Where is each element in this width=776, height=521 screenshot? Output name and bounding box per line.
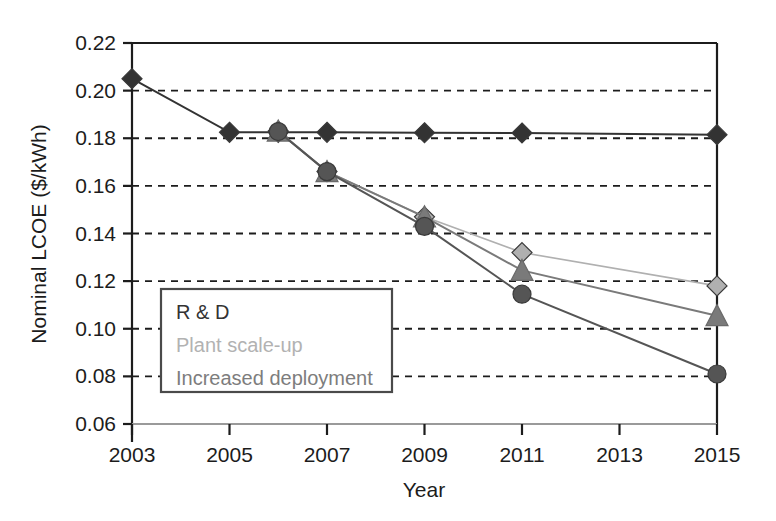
x-tick-label: 2011 [499, 443, 544, 466]
x-axis-title: Year [403, 478, 445, 501]
y-tick-label: 0.18 [75, 126, 116, 149]
y-tick-label: 0.08 [75, 364, 116, 387]
legend-entry-plant-scale-up: Plant scale-up [176, 334, 303, 356]
data-point [269, 123, 287, 141]
chart-container: 0.220.200.180.160.140.120.100.080.06 200… [0, 0, 776, 521]
lcoe-line-chart: 0.220.200.180.160.140.120.100.080.06 200… [0, 0, 776, 521]
y-axis-tick-labels: 0.220.200.180.160.140.120.100.080.06 [75, 31, 116, 435]
x-tick-label: 2005 [206, 443, 253, 466]
x-tick-label: 2009 [401, 443, 448, 466]
y-axis-title: Nominal LCOE ($/kWh) [27, 124, 50, 343]
x-tick-label: 2015 [694, 443, 741, 466]
legend-entry-rd: R & D [176, 301, 229, 323]
y-tick-label: 0.10 [75, 317, 116, 340]
x-tick-label: 2007 [304, 443, 351, 466]
y-tick-label: 0.22 [75, 31, 116, 54]
y-tick-label: 0.06 [75, 412, 116, 435]
y-tick-label: 0.12 [75, 269, 116, 292]
x-tick-label: 2003 [109, 443, 156, 466]
data-point [708, 365, 726, 383]
x-tick-label: 2013 [596, 443, 643, 466]
data-point [416, 217, 434, 235]
y-tick-label: 0.16 [75, 174, 116, 197]
chart-legend: R & D Plant scale-up Increased deploymen… [161, 289, 392, 392]
legend-entry-increased-deployment: Increased deployment [176, 367, 373, 389]
y-tick-label: 0.14 [75, 222, 116, 245]
y-tick-label: 0.20 [75, 79, 116, 102]
data-point [513, 285, 531, 303]
data-point [318, 163, 336, 181]
